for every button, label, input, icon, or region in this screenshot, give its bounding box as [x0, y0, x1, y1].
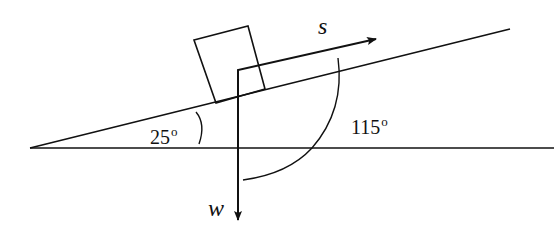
angle-label-25: 25o — [150, 125, 178, 147]
angle-arc-25 — [196, 112, 202, 144]
diagram-canvas: s w 25o 115o — [0, 0, 554, 230]
angle-value-25: 25 — [150, 126, 170, 148]
block — [194, 26, 265, 103]
angle-label-115: 115o — [351, 115, 388, 137]
degree-symbol: o — [171, 124, 178, 139]
w-label: w — [208, 196, 224, 220]
angle-value-115: 115 — [351, 116, 380, 138]
angle-arc-115 — [243, 58, 339, 180]
diagram-drawing — [0, 0, 554, 230]
incline-line — [30, 29, 510, 148]
degree-symbol: o — [381, 114, 388, 129]
s-label: s — [318, 14, 327, 38]
